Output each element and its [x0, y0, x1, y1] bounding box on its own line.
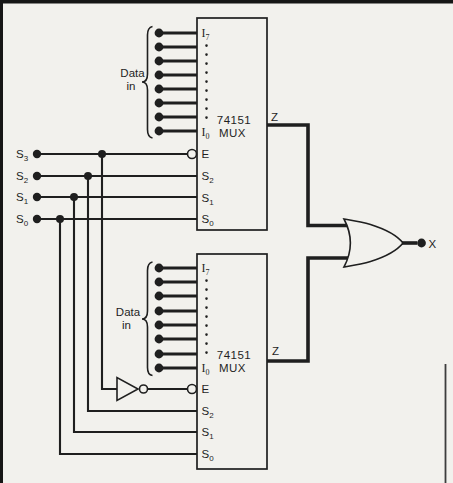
select-s3-drop-wire: [102, 154, 117, 389]
mux2-device-label: MUX: [219, 362, 246, 374]
mux1-z-route: [267, 125, 356, 226]
mux1-output-z-label: Z: [271, 111, 278, 123]
select-s3-label: S3: [16, 148, 29, 163]
select-s0-label: S0: [16, 213, 29, 228]
not-gate: [117, 378, 138, 401]
mux1-data-brace: [142, 27, 153, 139]
select-inputs: S3 S2 S1 S0: [16, 148, 197, 454]
mux2-data-in-label-line1: Data: [116, 306, 141, 318]
mux1-device-label: MUX: [219, 127, 246, 139]
mux2: Data in I7 I0 74151 MUX E S2 S1 S0 Z: [116, 254, 356, 469]
mux2-pin-e-label: E: [202, 383, 210, 395]
select-s0-drop-wire: [60, 219, 197, 454]
mux2-data-brace: [142, 262, 153, 376]
mux1-pin-i0-label: I0: [202, 125, 210, 141]
mux1-pin-s2-label: S2: [202, 170, 215, 185]
mux1: Data in I7 I0 74151 MUX E S2 S1 S0 Z: [120, 18, 356, 230]
mux2-enable-bubble: [188, 385, 197, 394]
output-dot: [417, 239, 426, 248]
output-stage: X: [344, 219, 437, 267]
select-s1-label: S1: [16, 191, 29, 206]
mux2-output-z-label: Z: [272, 345, 279, 357]
mux2-data-in-label-line2: in: [122, 319, 131, 331]
not-gate-bubble: [140, 385, 148, 393]
figure-canvas: S3 S2 S1 S0: [0, 0, 453, 483]
mux2-pin-i7-label: I7: [202, 261, 210, 277]
page-border-left: [0, 0, 3, 483]
mux1-pin-s0-label: S0: [202, 213, 215, 228]
circuit-diagram: S3 S2 S1 S0: [0, 0, 453, 483]
mux1-chip-label: 74151: [217, 114, 251, 126]
mux2-pin-s1-label: S1: [202, 426, 215, 441]
page-border-right: [445, 364, 447, 483]
mux1-pin-e-label: E: [202, 148, 210, 160]
mux1-enable-bubble: [188, 150, 197, 159]
mux2-pin-i0-label: I0: [202, 361, 210, 377]
mux1-data-in-label-line2: in: [127, 80, 136, 92]
mux1-data-in-label-line1: Data: [120, 67, 145, 79]
mux2-z-route: [267, 258, 356, 361]
select-s2-label: S2: [16, 170, 29, 185]
mux2-pin-s2-label: S2: [202, 405, 215, 420]
page-border-top: [0, 0, 453, 4]
select-s2-drop-wire: [88, 176, 197, 411]
mux1-pin-i7-label: I7: [202, 26, 210, 42]
mux2-chip-label: 74151: [217, 349, 251, 361]
mux1-data-inputs: [155, 29, 197, 136]
mux1-pin-s1-label: S1: [202, 192, 215, 207]
mux2-pin-s0-label: S0: [202, 448, 215, 463]
mux2-data-inputs: [155, 264, 197, 373]
or-gate: [344, 219, 403, 267]
output-x-label: X: [429, 238, 437, 250]
